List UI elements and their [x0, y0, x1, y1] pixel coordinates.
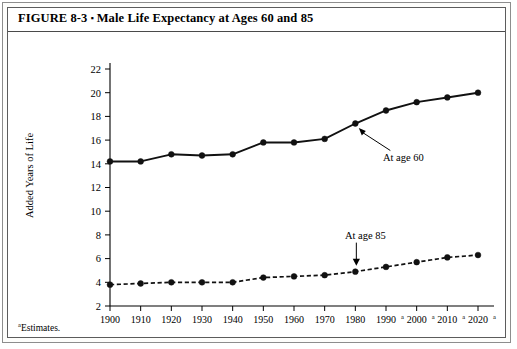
x-tick-label: 1990 — [376, 314, 396, 324]
x-tick-label: 1900 — [100, 314, 120, 324]
data-point — [291, 140, 297, 146]
data-point — [230, 151, 236, 157]
x-tick-label: 1920 — [161, 314, 181, 324]
y-tick-label: 12 — [91, 182, 102, 193]
data-point — [260, 140, 266, 146]
y-tick-label: 18 — [91, 111, 102, 122]
plot-region: Added Years of Life 24681012141618202219… — [8, 32, 505, 337]
annotation-leader-line-60 — [362, 132, 391, 151]
y-tick-label: 22 — [91, 64, 102, 75]
data-point — [352, 121, 358, 127]
data-point — [444, 95, 450, 101]
data-point — [322, 272, 328, 278]
data-point — [138, 281, 144, 287]
x-tick-superscript: a — [462, 313, 465, 320]
x-tick-label: 1950 — [253, 314, 273, 324]
figure-inner-frame: FIGURE 8-3▪Male Life Expectancy at Ages … — [7, 7, 506, 338]
data-point — [414, 99, 420, 105]
y-tick-label: 10 — [91, 206, 102, 217]
data-point — [199, 153, 205, 159]
line-chart: 2468101214161820221900191019201930194019… — [8, 32, 507, 324]
x-tick-label: 1960 — [284, 314, 304, 324]
x-tick-superscript: a — [493, 313, 496, 320]
data-point — [414, 259, 420, 265]
figure-outer-frame: FIGURE 8-3▪Male Life Expectancy at Ages … — [2, 2, 511, 343]
y-tick-label: 2 — [96, 301, 101, 312]
y-tick-label: 4 — [96, 277, 102, 288]
x-tick-label: 1980 — [345, 314, 365, 324]
data-point — [383, 108, 389, 114]
annotation-label-at-age-85: At age 85 — [345, 230, 386, 241]
data-point — [107, 282, 113, 288]
data-point — [107, 159, 113, 165]
data-point — [322, 136, 328, 142]
figure-number: FIGURE 8-3 — [18, 11, 87, 25]
data-point — [168, 151, 174, 157]
data-point — [352, 269, 358, 275]
x-tick-label: 1940 — [223, 314, 243, 324]
y-tick-label: 14 — [91, 159, 102, 170]
y-tick-label: 20 — [91, 88, 102, 99]
title-separator-icon: ▪ — [87, 13, 96, 23]
data-point — [444, 255, 450, 261]
x-tick-label: 1910 — [131, 314, 151, 324]
x-tick-label: 2000 — [407, 314, 427, 324]
data-point — [230, 279, 236, 285]
annotation-arrowhead-85 — [353, 259, 360, 266]
figure-footnote: aEstimates. — [18, 321, 60, 333]
footnote-text: Estimates. — [21, 323, 60, 333]
y-tick-label: 8 — [96, 230, 101, 241]
data-point — [383, 264, 389, 270]
x-tick-label: 2020 — [468, 314, 488, 324]
figure-title-bar: FIGURE 8-3▪Male Life Expectancy at Ages … — [8, 8, 505, 32]
y-tick-label: 6 — [96, 253, 101, 264]
data-point — [138, 159, 144, 165]
y-tick-label: 16 — [91, 135, 102, 146]
data-point — [260, 275, 266, 281]
x-tick-superscript: a — [432, 313, 435, 320]
x-tick-label: 1970 — [315, 314, 335, 324]
data-point — [475, 252, 481, 258]
data-point — [199, 279, 205, 285]
x-tick-superscript: a — [401, 313, 404, 320]
figure-title-text: Male Life Expectancy at Ages 60 and 85 — [97, 11, 314, 25]
x-tick-label: 2010 — [437, 314, 457, 324]
data-point — [291, 273, 297, 279]
figure-title: FIGURE 8-3▪Male Life Expectancy at Ages … — [18, 11, 313, 26]
data-point — [475, 90, 481, 96]
series-line-2 — [110, 255, 478, 285]
annotation-label-at-age-60: At age 60 — [383, 152, 424, 163]
x-tick-label: 1930 — [192, 314, 212, 324]
data-point — [168, 279, 174, 285]
